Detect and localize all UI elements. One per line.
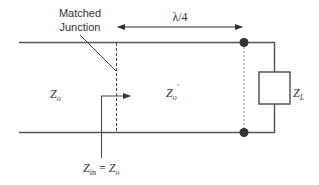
terminal-dot-top <box>240 38 249 47</box>
quarter-wave-diagram: λ/4 Matched Junction Zo Zo′ ZL Zin = Zo <box>0 0 319 185</box>
junction-label-line2: Junction <box>60 21 101 33</box>
zl-label: ZL <box>293 86 305 102</box>
junction-leader-line <box>80 35 116 71</box>
z0-prime-label: Zo′ <box>166 83 179 102</box>
zin-equation: Zin = Zo <box>83 161 119 177</box>
z0-left-label: Zo <box>50 87 61 103</box>
terminal-dot-bottom <box>240 128 249 137</box>
length-label: λ/4 <box>172 10 187 24</box>
junction-label-line1: Matched <box>59 7 101 19</box>
load-impedance-box <box>259 72 290 104</box>
